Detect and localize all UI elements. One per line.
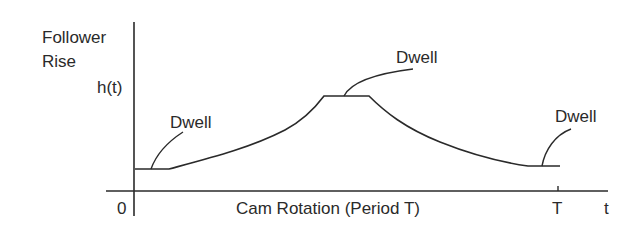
y-axis-label-follower: Follower	[42, 29, 106, 47]
dwell-label-end: Dwell	[555, 108, 597, 126]
origin-label: 0	[117, 200, 126, 218]
cam-displacement-diagram: Follower Rise h(t) Dwell Dwell Dwell 0 C…	[0, 0, 643, 228]
dwell-leader-end	[542, 129, 571, 166]
y-axis-label-rise: Rise	[42, 53, 76, 71]
dwell-leader-peak	[344, 69, 413, 96]
period-label: T	[552, 200, 562, 218]
x-axis-label: Cam Rotation (Period T)	[236, 200, 420, 218]
time-variable-label: t	[604, 200, 609, 218]
dwell-label-start: Dwell	[170, 114, 212, 132]
dwell-label-peak: Dwell	[396, 49, 438, 67]
follower-rise-curve	[135, 96, 560, 169]
dwell-leader-start	[151, 132, 183, 169]
function-label: h(t)	[97, 79, 123, 97]
